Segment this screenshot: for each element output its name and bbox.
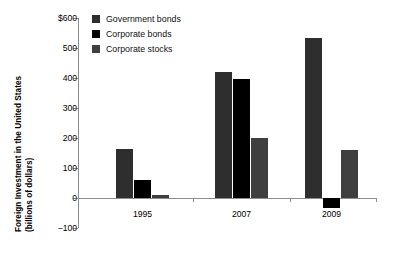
y-tick-label: $600	[31, 13, 77, 23]
legend-item: Government bonds	[92, 12, 181, 26]
y-tick-label: 300	[31, 103, 77, 113]
y-tick-label: −100	[31, 223, 77, 233]
bar	[251, 138, 268, 198]
y-tick-label: 400	[31, 73, 77, 83]
legend-item: Corporate bonds	[92, 27, 181, 41]
bar-chart: Foreign Investment in the United States …	[0, 0, 395, 266]
bar	[323, 198, 340, 208]
x-axis-category-label: 1995	[133, 209, 152, 219]
x-axis-category-label: 2007	[232, 209, 251, 219]
legend-swatch-icon	[92, 45, 100, 53]
bar	[134, 180, 151, 198]
legend: Government bondsCorporate bondsCorporate…	[92, 12, 181, 57]
bar	[341, 150, 358, 198]
x-tick-mark	[290, 198, 291, 202]
y-axis-title-line-1: Foreign Investment in the United States	[14, 76, 23, 232]
y-tick-label: 200	[31, 133, 77, 143]
x-tick-mark	[193, 198, 194, 202]
x-tick-mark	[376, 198, 377, 202]
x-axis-category-label: 2009	[322, 209, 341, 219]
bar	[215, 72, 232, 198]
legend-item: Corporate stocks	[92, 42, 181, 56]
y-tick-label: 100	[31, 163, 77, 173]
bar	[116, 149, 133, 199]
legend-label: Government bonds	[106, 14, 181, 24]
y-tick-label: 0	[31, 193, 77, 203]
legend-label: Corporate stocks	[106, 44, 173, 54]
legend-swatch-icon	[92, 15, 100, 23]
bar	[152, 195, 169, 198]
x-tick-mark	[78, 198, 79, 202]
bar	[233, 79, 250, 198]
bar	[305, 38, 322, 198]
legend-label: Corporate bonds	[106, 29, 172, 39]
legend-swatch-icon	[92, 30, 100, 38]
y-tick-label: 500	[31, 43, 77, 53]
y-axis-line	[78, 18, 79, 228]
